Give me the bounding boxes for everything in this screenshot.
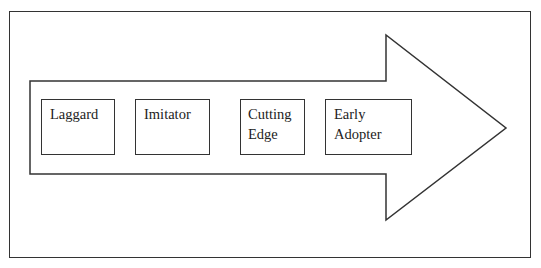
stage-label-line-2: Edge bbox=[248, 124, 296, 144]
stage-label-line-2: Adopter bbox=[334, 124, 403, 144]
stage-label: Imitator bbox=[144, 104, 201, 124]
stage-box-imitator: Imitator bbox=[135, 99, 210, 155]
stage-box-early-adopter: Early Adopter bbox=[325, 99, 412, 155]
stage-label: Laggard bbox=[50, 104, 106, 124]
stage-label-line-1: Cutting bbox=[248, 104, 296, 124]
stage-box-laggard: Laggard bbox=[41, 99, 115, 155]
stage-box-cutting-edge: Cutting Edge bbox=[240, 99, 305, 155]
stage-label-line-1: Early bbox=[334, 104, 403, 124]
